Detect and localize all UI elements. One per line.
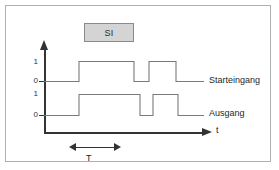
signal-label-starteingang: Starteingang — [209, 76, 260, 85]
period-marker-line — [74, 147, 116, 148]
timing-diagram-screenshot: SI t 1 0 1 0 Starteingang Ausgang T — [0, 0, 279, 170]
waveform-starteingang — [44, 62, 204, 82]
period-marker-right-arrow-icon — [114, 143, 121, 151]
signal-label-ausgang: Ausgang — [209, 109, 245, 118]
diagram-frame: SI t 1 0 1 0 Starteingang Ausgang T — [5, 5, 271, 162]
waveform-ausgang — [44, 95, 204, 116]
period-marker-label: T — [86, 154, 92, 163]
period-marker-left-arrow-icon — [69, 143, 76, 151]
